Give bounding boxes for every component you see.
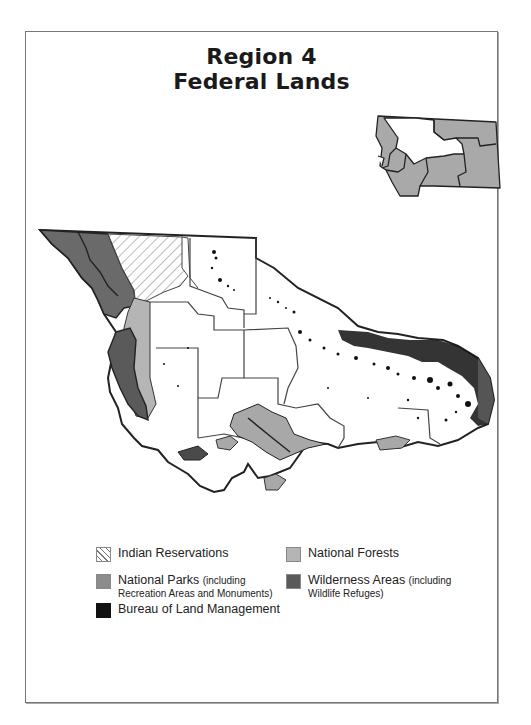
- medium-gray-swatch-icon: [96, 574, 111, 589]
- light-gray-swatch-icon: [286, 547, 301, 562]
- dark-gray-swatch-icon: [286, 574, 301, 589]
- hatched-swatch-icon: [96, 547, 111, 562]
- map-legend: Indian Reservations National Forests Nat…: [96, 547, 496, 637]
- title-line-1: Region 4: [26, 44, 497, 69]
- legend-item-national-forests: National Forests: [286, 547, 399, 562]
- national-forest-small-2: [264, 474, 286, 490]
- state-outline-locator-icon: [374, 110, 502, 200]
- title-line-2: Federal Lands: [26, 69, 497, 94]
- legend-item-indian-reservations: Indian Reservations: [96, 547, 228, 562]
- black-swatch-icon: [96, 603, 111, 618]
- legend-item-blm: Bureau of Land Management: [96, 603, 280, 618]
- region-federal-lands-map: [38, 228, 496, 520]
- map-title: Region 4 Federal Lands: [26, 44, 497, 94]
- map-frame: Region 4 Federal Lands: [25, 31, 498, 703]
- legend-item-national-parks: National Parks (including Recreation Are…: [96, 574, 273, 600]
- legend-item-wilderness-areas: Wilderness Areas (including Wildlife Ref…: [286, 574, 451, 600]
